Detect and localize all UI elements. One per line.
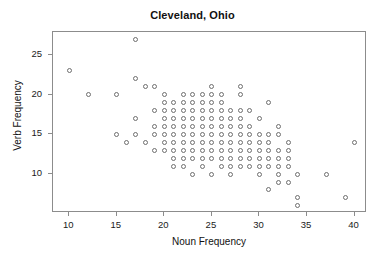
x-axis-label: Noun Frequency (52, 236, 366, 247)
data-point (171, 140, 176, 145)
data-point (171, 156, 176, 161)
data-point (190, 132, 195, 137)
data-point (181, 156, 186, 161)
data-point (181, 124, 186, 129)
data-point (228, 140, 233, 145)
data-point (209, 148, 214, 153)
data-point (266, 164, 271, 169)
data-point (133, 37, 138, 42)
data-point (286, 156, 291, 161)
data-point (276, 148, 281, 153)
data-point (324, 172, 329, 177)
x-tick-label: 15 (104, 219, 128, 230)
data-point (257, 132, 262, 137)
data-point (190, 124, 195, 129)
data-point (257, 172, 262, 177)
data-point (228, 148, 233, 153)
data-point (171, 100, 176, 105)
data-point (200, 100, 205, 105)
x-tick-label: 35 (294, 219, 318, 230)
data-point (247, 108, 252, 113)
data-point (247, 156, 252, 161)
data-point (276, 180, 281, 185)
data-point (276, 124, 281, 129)
data-point (286, 140, 291, 145)
data-point (162, 100, 167, 105)
data-point (257, 148, 262, 153)
data-point (200, 116, 205, 121)
y-tick-label: 20 (16, 88, 42, 99)
data-point (295, 172, 300, 177)
data-point (124, 140, 129, 145)
data-point (190, 92, 195, 97)
data-point (162, 92, 167, 97)
data-point (219, 132, 224, 137)
data-point (133, 76, 138, 81)
data-point (143, 84, 148, 89)
data-point (219, 124, 224, 129)
data-point (190, 108, 195, 113)
scatter-plot-figure: Cleveland, Ohio Verb Frequency Noun Freq… (0, 0, 385, 262)
data-point (171, 148, 176, 153)
data-point (238, 116, 243, 121)
data-point (266, 140, 271, 145)
data-point (200, 156, 205, 161)
data-point (209, 108, 214, 113)
data-point (228, 132, 233, 137)
data-point (257, 116, 262, 121)
y-axis-label: Verb Frequency (12, 56, 23, 176)
data-point (209, 84, 214, 89)
data-point (228, 108, 233, 113)
data-point (162, 116, 167, 121)
data-point (86, 92, 91, 97)
x-tick-mark (163, 212, 164, 216)
data-point (171, 132, 176, 137)
data-point (238, 108, 243, 113)
data-point (200, 92, 205, 97)
data-point (152, 132, 157, 137)
data-point (181, 148, 186, 153)
data-point (171, 116, 176, 121)
data-point (181, 100, 186, 105)
data-point (219, 100, 224, 105)
x-tick-mark (211, 212, 212, 216)
data-point (352, 140, 357, 145)
data-point (295, 203, 300, 208)
data-point (219, 164, 224, 169)
data-point (190, 100, 195, 105)
data-point (209, 132, 214, 137)
data-point (114, 92, 119, 97)
data-point (228, 172, 233, 177)
data-point (190, 156, 195, 161)
data-point (181, 164, 186, 169)
data-point (200, 140, 205, 145)
data-point (238, 140, 243, 145)
data-point (190, 172, 195, 177)
data-point (162, 148, 167, 153)
data-point (286, 164, 291, 169)
x-tick-mark (68, 212, 69, 216)
x-tick-label: 20 (151, 219, 175, 230)
y-tick-label: 15 (16, 127, 42, 138)
data-point (143, 140, 148, 145)
data-point (162, 108, 167, 113)
data-point (162, 124, 167, 129)
x-tick-mark (306, 212, 307, 216)
data-point (209, 124, 214, 129)
data-point (247, 132, 252, 137)
data-point (228, 164, 233, 169)
data-point (266, 187, 271, 192)
data-point (209, 116, 214, 121)
data-point (171, 124, 176, 129)
y-tick-label: 10 (16, 167, 42, 178)
data-point (257, 140, 262, 145)
x-tick-label: 25 (199, 219, 223, 230)
data-point (266, 100, 271, 105)
data-point (219, 148, 224, 153)
data-point (247, 140, 252, 145)
x-tick-label: 10 (56, 219, 80, 230)
data-point (219, 140, 224, 145)
data-point (190, 116, 195, 121)
page-title: Cleveland, Ohio (0, 9, 385, 21)
data-point (152, 148, 157, 153)
